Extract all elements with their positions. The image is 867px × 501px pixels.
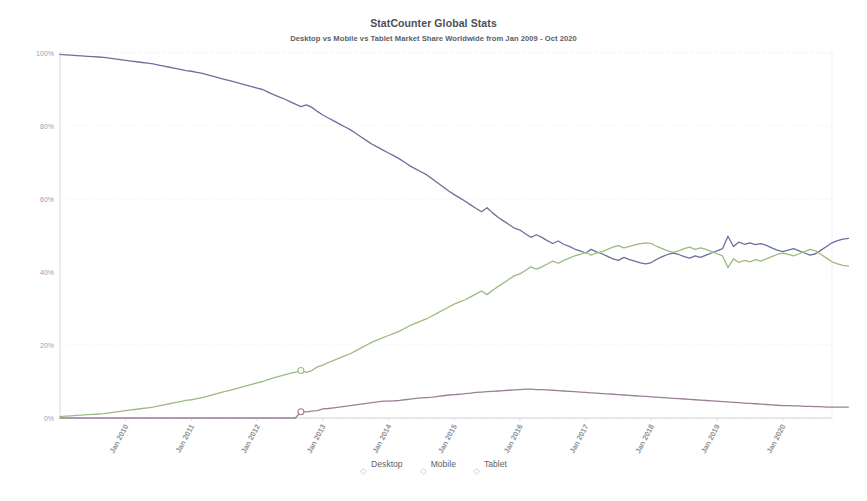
svg-text:Jan 2017: Jan 2017 xyxy=(568,423,591,455)
legend-marker-desktop-icon xyxy=(360,461,367,468)
svg-text:0%: 0% xyxy=(44,415,54,422)
legend-label-desktop: Desktop xyxy=(371,459,403,469)
svg-text:Jan 2010: Jan 2010 xyxy=(108,423,131,455)
svg-text:Jan 2013: Jan 2013 xyxy=(305,423,328,455)
svg-text:Jan 2020: Jan 2020 xyxy=(765,423,788,455)
svg-text:Jan 2012: Jan 2012 xyxy=(239,423,262,455)
legend-marker-tablet-icon xyxy=(473,461,480,468)
svg-text:Jan 2014: Jan 2014 xyxy=(370,422,393,455)
svg-text:Jan 2016: Jan 2016 xyxy=(502,423,525,455)
svg-text:40%: 40% xyxy=(40,269,54,276)
svg-text:100%: 100% xyxy=(36,50,54,57)
data-point-marker[interactable] xyxy=(298,368,304,374)
svg-text:80%: 80% xyxy=(40,123,54,130)
svg-text:20%: 20% xyxy=(40,342,54,349)
chart-plot-area: 0%20%40%60%80%100%Jan 2010Jan 2011Jan 20… xyxy=(0,0,867,455)
data-point-marker[interactable] xyxy=(298,409,304,415)
series-line-tablet xyxy=(60,389,848,418)
svg-text:Jan 2011: Jan 2011 xyxy=(174,423,197,455)
chart-legend: Desktop Mobile Tablet xyxy=(0,459,867,469)
svg-text:Jan 2018: Jan 2018 xyxy=(633,423,656,455)
legend-item-mobile[interactable]: Mobile xyxy=(420,459,456,469)
statcounter-chart: StatCounter Global Stats Desktop vs Mobi… xyxy=(0,0,867,501)
legend-item-tablet[interactable]: Tablet xyxy=(473,459,507,469)
legend-item-desktop[interactable]: Desktop xyxy=(360,459,403,469)
legend-marker-mobile-icon xyxy=(420,461,427,468)
svg-text:60%: 60% xyxy=(40,196,54,203)
legend-label-mobile: Mobile xyxy=(431,459,456,469)
series-line-desktop xyxy=(60,54,848,264)
svg-text:Jan 2015: Jan 2015 xyxy=(436,423,459,455)
series-line-mobile xyxy=(60,243,848,417)
svg-text:Jan 2019: Jan 2019 xyxy=(699,423,722,455)
legend-label-tablet: Tablet xyxy=(484,459,507,469)
